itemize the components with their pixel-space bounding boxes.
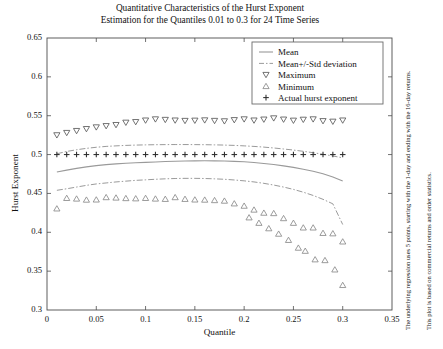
mean-line bbox=[57, 161, 343, 181]
maximum-marker bbox=[320, 119, 326, 124]
minimum-marker bbox=[330, 231, 336, 236]
maximum-marker bbox=[290, 118, 296, 123]
minimum-marker bbox=[300, 225, 306, 230]
minimum-marker bbox=[133, 196, 139, 201]
minimum-marker bbox=[162, 196, 168, 201]
legend-label: Mean bbox=[278, 47, 299, 57]
maximum-marker bbox=[251, 118, 257, 123]
maximum-marker bbox=[162, 117, 168, 122]
maximum-marker bbox=[241, 117, 247, 122]
minimum-marker bbox=[302, 248, 308, 253]
maximum-marker bbox=[330, 119, 336, 124]
maximum-marker bbox=[261, 117, 267, 122]
minimum-marker bbox=[93, 197, 99, 202]
chart-root: Quantitative Characteristics of the Hurs… bbox=[0, 0, 443, 349]
legend-label: Maximum bbox=[278, 70, 316, 80]
minimum-marker bbox=[202, 197, 208, 202]
minimum-marker bbox=[322, 257, 328, 262]
maximum-marker bbox=[280, 117, 286, 122]
minimum-marker bbox=[290, 220, 296, 225]
std-band-lower-line bbox=[57, 178, 343, 224]
minimum-marker bbox=[295, 245, 301, 250]
std-band-upper-line bbox=[57, 145, 343, 158]
minimum-marker bbox=[221, 198, 227, 203]
minimum-marker bbox=[142, 195, 148, 200]
minimum-marker bbox=[64, 195, 70, 200]
legend-label: Minimum bbox=[278, 82, 314, 92]
maximum-marker bbox=[142, 118, 148, 123]
minimum-marker bbox=[123, 195, 129, 200]
maximum-marker bbox=[93, 125, 99, 130]
minimum-marker bbox=[285, 237, 291, 242]
maximum-marker bbox=[73, 128, 79, 133]
minimum-marker bbox=[182, 196, 188, 201]
maximum-marker bbox=[103, 124, 109, 129]
minimum-marker bbox=[320, 230, 326, 235]
minimum-marker bbox=[280, 215, 286, 220]
minimum-marker bbox=[332, 267, 338, 272]
minimum-marker bbox=[310, 225, 316, 230]
maximum-marker bbox=[123, 120, 129, 125]
minimum-marker bbox=[83, 197, 89, 202]
minimum-marker bbox=[231, 201, 237, 206]
minimum-marker bbox=[241, 203, 247, 208]
minimum-marker bbox=[103, 194, 109, 199]
legend-label: Actual hurst exponent bbox=[278, 93, 358, 103]
maximum-marker bbox=[152, 117, 158, 122]
minimum-marker bbox=[312, 257, 318, 262]
minimum-marker bbox=[340, 239, 346, 244]
minimum-marker bbox=[172, 194, 178, 199]
minimum-marker bbox=[276, 231, 282, 236]
minimum-marker bbox=[211, 197, 217, 202]
legend-label: Mean+/-Std deviation bbox=[278, 59, 357, 69]
maximum-marker bbox=[340, 118, 346, 123]
maximum-marker bbox=[182, 118, 188, 123]
maximum-marker bbox=[310, 117, 316, 122]
minimum-marker bbox=[192, 197, 198, 202]
minimum-marker bbox=[340, 282, 346, 287]
minimum-marker bbox=[246, 215, 252, 220]
minimum-marker bbox=[261, 210, 267, 215]
maximum-marker bbox=[300, 117, 306, 122]
side-note-source: This plot is based on commercial returns… bbox=[425, 172, 433, 330]
maximum-marker bbox=[113, 122, 119, 127]
side-note-regression: The underlying regression uses 5 points,… bbox=[404, 71, 412, 330]
minimum-marker bbox=[266, 226, 272, 231]
plot-area: MeanMean+/-Std deviationMaximumMinimumAc… bbox=[0, 0, 443, 349]
maximum-marker bbox=[271, 116, 277, 121]
maximum-marker bbox=[231, 118, 237, 123]
maximum-marker bbox=[211, 118, 217, 123]
minimum-marker bbox=[256, 220, 262, 225]
maximum-marker bbox=[192, 118, 198, 123]
maximum-marker bbox=[221, 119, 227, 124]
maximum-marker bbox=[202, 118, 208, 123]
maximum-marker bbox=[133, 120, 139, 125]
minimum-marker bbox=[73, 196, 79, 201]
maximum-marker bbox=[83, 127, 89, 132]
maximum-marker bbox=[54, 133, 60, 138]
minimum-marker bbox=[271, 210, 277, 215]
minimum-marker bbox=[113, 195, 119, 200]
minimum-marker bbox=[251, 207, 257, 212]
minimum-marker bbox=[54, 206, 60, 211]
maximum-marker bbox=[172, 118, 178, 123]
minimum-marker bbox=[152, 196, 158, 201]
maximum-marker bbox=[64, 130, 70, 135]
